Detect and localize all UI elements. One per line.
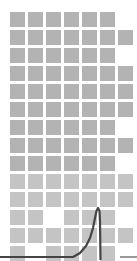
grid-cell [46,228,61,243]
grid-cell [46,84,61,99]
grid-cell [100,228,115,243]
grid-cell [28,66,43,81]
grid-cell [118,174,133,189]
grid-cell [28,120,43,135]
grid-cell [82,12,97,27]
grid-cell [64,138,79,153]
grid-cell [100,174,115,189]
grid-cell [118,102,133,117]
grid-cell [100,210,115,225]
grid-cell [64,156,79,171]
grid-cell [100,48,115,63]
grid-cell [82,66,97,81]
grid-cell [28,228,43,243]
grid-cell [100,84,115,99]
grid-cell [64,246,79,261]
grid-cell [118,30,133,45]
grid-cell [28,174,43,189]
grid-cell [46,12,61,27]
grid-cell [64,84,79,99]
grid-cell [10,246,25,261]
grid-cell [64,174,79,189]
grid-cell [46,138,61,153]
grid-cell [10,102,25,117]
grid-cell [100,120,115,135]
grid-cell [10,84,25,99]
grid-cell [28,102,43,117]
grid-cell [28,210,43,225]
grid-cell [100,12,115,27]
grid-cell [82,138,97,153]
grid-cell [118,192,133,207]
grid-cell [64,48,79,63]
grid-cell [28,138,43,153]
grid-cell [46,174,61,189]
grid-cell [10,12,25,27]
grid-cell [10,156,25,171]
grid-cell [46,66,61,81]
grid-cell [82,228,97,243]
grid-cell [64,192,79,207]
grid-cell [82,30,97,45]
grid-cell [82,192,97,207]
grid-cell [46,192,61,207]
grid-cell [46,48,61,63]
grid-cell [64,228,79,243]
grid-cell [100,246,115,261]
grid-cell [100,102,115,117]
grid-cell [100,66,115,81]
grid-cell [28,48,43,63]
grid-cell [82,48,97,63]
grid-cell [64,120,79,135]
grid-cell [28,84,43,99]
grid-cell [82,102,97,117]
grid-cell [82,156,97,171]
grid-cell [10,30,25,45]
grid-cell [100,138,115,153]
grid-cell [100,192,115,207]
grid-cell [46,246,61,261]
grid-cell [28,192,43,207]
grid-cell [64,30,79,45]
grid-cell [100,156,115,171]
grid-cell [10,210,25,225]
grid-cell [82,120,97,135]
grid-cell [64,210,79,225]
grid-cell [64,66,79,81]
grid-cell [46,156,61,171]
grid-cell [82,246,97,261]
grid-cell [64,12,79,27]
grid-cell [10,120,25,135]
grid-cell [64,102,79,117]
grid-cell [46,30,61,45]
grid-cell [118,228,133,243]
grid-cell [28,12,43,27]
grid-cell [10,138,25,153]
grid-cell [82,210,97,225]
grid-cell [10,66,25,81]
grid-cell [28,30,43,45]
grid-cell [10,192,25,207]
grid-cell [46,102,61,117]
grid-cell [118,66,133,81]
grid-cell [46,120,61,135]
grid-cell [10,174,25,189]
grid-cell [118,84,133,99]
grid-cell [82,84,97,99]
grid-cell [10,48,25,63]
grid-cell [118,138,133,153]
grid-cell [82,174,97,189]
grid-cell [28,156,43,171]
grid-cell [10,228,25,243]
grid-cell [100,30,115,45]
